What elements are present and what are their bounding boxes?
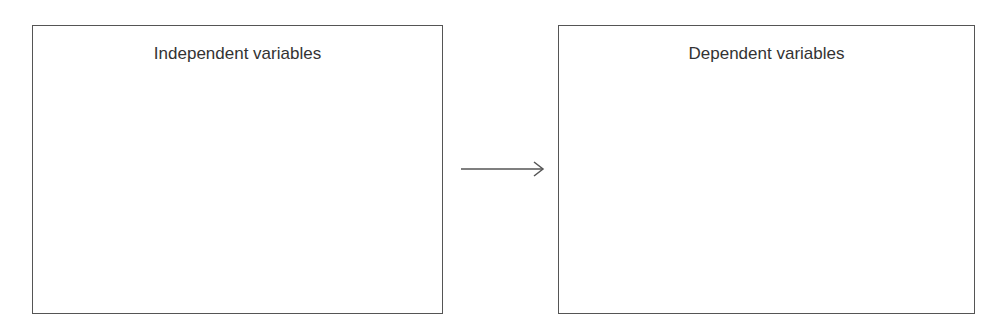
independent-variables-box: Independent variables [32,25,443,314]
independent-variables-label: Independent variables [33,44,442,64]
dependent-variables-box: Dependent variables [558,25,975,314]
dependent-variables-label: Dependent variables [559,44,974,64]
arrow-right-icon [458,160,548,180]
